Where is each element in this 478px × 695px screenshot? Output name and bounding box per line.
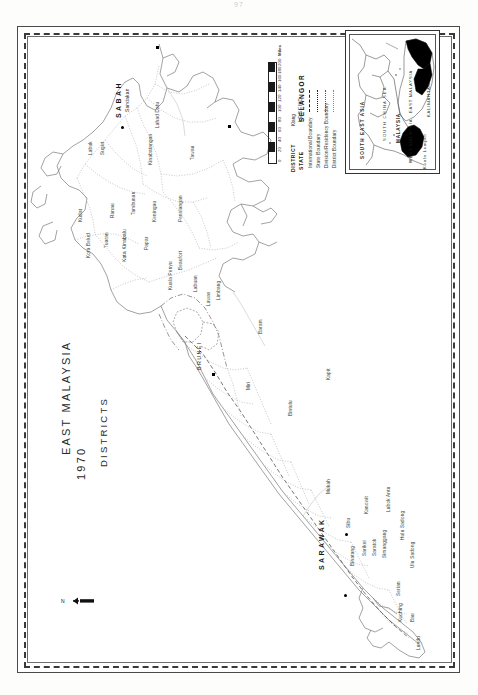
legend-label-district: District Boundary — [332, 130, 337, 168]
legend-label-division: Division/Residency Boundary — [324, 103, 329, 168]
scale-seg — [268, 102, 275, 112]
scale-tick: 80 — [277, 117, 282, 122]
north-arrow-icon: N — [58, 596, 98, 606]
map-label-district-labuan: Labuan — [193, 275, 198, 292]
legend-symbol-state — [317, 90, 319, 112]
inset-label-south-east-asia: SOUTH EAST ASIA — [360, 101, 365, 159]
inset-label-east-malaysia: EAST MALAYSIA — [408, 70, 413, 113]
legend-example-head-district: DISTRICT — [290, 144, 296, 172]
map-label-district-tambunan: Tambunan — [131, 192, 136, 215]
map-label-district-lundu: Lundu — [416, 636, 421, 650]
map-label-district-miri: Miri — [246, 382, 251, 390]
legend-label-international: International Boundary — [308, 117, 313, 168]
legend-symbol-international — [309, 90, 311, 112]
map-label-district-beaufort: Beaufort — [178, 251, 183, 270]
map-label-district-bintulu: Bintulu — [288, 400, 293, 416]
map-label-district-tawau: Tawau — [190, 145, 195, 160]
inset-east-malaysia-shape — [406, 39, 432, 69]
scale-tick: 60 — [277, 127, 282, 132]
legend-example-district-name: Klang — [291, 114, 296, 126]
map-label-district-saratok: Saratok — [372, 538, 377, 556]
svg-text:N: N — [61, 598, 65, 604]
map-label-city-sandakan: Sandakan — [125, 88, 130, 112]
scale-tick: 200 — [277, 59, 282, 66]
map-page: 97 — [0, 0, 478, 695]
map-label-district-kuala-penyu: Kuala Penyu — [168, 261, 173, 290]
city-marker-miri — [212, 373, 215, 376]
scale-tick: 0 — [277, 160, 282, 162]
map-label-district-kanowit: Kanowit — [364, 496, 369, 514]
map-label-district-papar: Papar — [144, 236, 149, 250]
map-label-city-kuching: Kuching — [398, 603, 403, 622]
map-label-district-pensiangan: Pensiangan — [178, 195, 183, 222]
map-label-district-limbang: Limbang — [216, 281, 221, 300]
map-label-district-labuk: Labuk — [88, 141, 93, 155]
scale-tick: 180 — [277, 67, 282, 74]
legend-label-state: State Boundary — [316, 134, 321, 168]
map-label-state-sabah: SABAH — [115, 81, 122, 118]
scale-tick: 160 — [277, 75, 282, 82]
inset-label-kuala-lumpur: Kuala Lumpur — [422, 133, 427, 169]
inset-map: SOUTH EAST ASIA SOUTH CHINA SEA MALAYSIA… — [345, 30, 440, 174]
map-label-district-kudat: Kudat — [78, 209, 83, 222]
city-marker-sibu — [345, 533, 348, 536]
legend-example-head-state: STATE — [298, 151, 304, 170]
map-label-district-ranau: Ranau — [110, 203, 115, 218]
map-label-district-serian: Serian — [396, 581, 401, 596]
map-label-district-lahad-datu: Lahad Datu — [155, 102, 160, 128]
map-label-district-kota-belud: Kota Belud — [86, 233, 91, 258]
city-marker-kuching — [344, 594, 347, 597]
scale-tick: 100 — [277, 105, 282, 112]
scale-tick: 120 — [277, 95, 282, 102]
map-label-district-hulu-sadong: Hulu Sadong — [400, 511, 405, 540]
city-marker-kudat-point — [156, 46, 159, 49]
page-number: 97 — [0, 1, 478, 8]
inset-label-west-malaysia: WEST MALAYSIA — [408, 119, 413, 163]
map-label-city-sibu: Sibu — [346, 518, 351, 528]
legend-example-state-name: SELANGOR — [298, 74, 305, 122]
map-label-district-binatang: Binatang — [350, 546, 355, 566]
map-title-line3: DISTRICTS — [98, 397, 109, 467]
scale-tick: 20 — [277, 147, 282, 152]
map-label-district-ulu-sadong: Ulu Sadong — [410, 541, 415, 568]
map-title-line2: 1970 — [75, 447, 87, 480]
legend-symbol-district — [333, 90, 335, 112]
map-label-district-lawas: Lawas — [206, 291, 211, 306]
map-label-district-mukah: Mukah — [326, 479, 331, 494]
inset-label-south-china-sea: SOUTH CHINA SEA — [382, 86, 387, 141]
map-label-district-kinabatangan: Kinabatangan — [148, 134, 153, 165]
map-label-district-keningau: Keningau — [152, 201, 157, 222]
scale-tick: 140 — [277, 85, 282, 92]
inset-label-kalimantan: KALIMANTAN — [426, 83, 431, 117]
scale-unit-label: Miles — [277, 45, 282, 56]
scale-seg — [268, 122, 275, 132]
map-label-district-baram: Baram — [258, 319, 263, 334]
scale-tick: 40 — [277, 137, 282, 142]
scale-seg — [268, 82, 275, 92]
scale-seg — [268, 62, 275, 72]
map-label-state-brunei: BRUNEI — [196, 341, 202, 370]
inset-label-malaysia: MALAYSIA — [396, 113, 401, 143]
map-label-district-sugut: Sugut — [100, 142, 105, 155]
map-label-state-sarawak: SARAWAK — [318, 517, 325, 570]
map-label-district-lubok-antu: Lubok Antu — [386, 487, 391, 513]
map-label-district-bau: Bau — [410, 613, 415, 622]
map-label-district-simanggang: Simanggang — [382, 530, 387, 558]
map-label-district-sarikei: Sarikei — [362, 540, 367, 556]
scale-seg — [268, 142, 275, 152]
map-label-district-tuaran: Tuaran — [104, 232, 109, 248]
map-label-city-kota-kinabalu: Kota Kinabalu — [122, 229, 127, 262]
map-title-line1: EAST MALAYSIA — [60, 341, 72, 455]
city-marker-kota-kinabalu — [121, 126, 124, 129]
map-legend: LEGEND International Boundary State Boun… — [296, 60, 342, 172]
map-label-district-kapit: Kapit — [326, 368, 331, 380]
city-marker-sandakan — [228, 125, 231, 128]
